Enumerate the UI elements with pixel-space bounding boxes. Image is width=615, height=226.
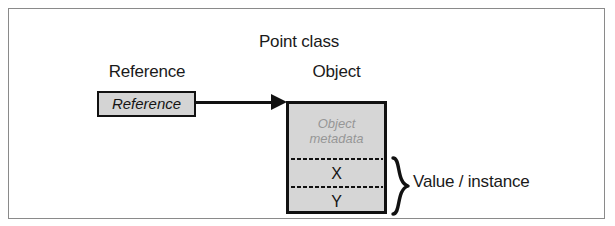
figure-frame: Point class Reference Object Reference O… [8,8,605,219]
object-field-y-label: Y [331,193,342,210]
object-metadata-line-1: Object [318,116,356,131]
reference-column-heading: Reference [97,62,197,81]
object-column-heading: Object [286,62,387,81]
diagram-canvas: Point class Reference Object Reference O… [0,0,615,226]
reference-to-object-arrow-head [271,94,287,110]
reference-box-label: Reference [112,96,181,112]
object-metadata-line-2: metadata [309,131,363,146]
object-metadata-region: Object metadata [289,104,384,157]
object-field-x-label: X [331,165,342,182]
object-box: Object metadata X Y [286,101,387,214]
reference-box: Reference [97,91,196,117]
reference-to-object-arrow-shaft [196,101,274,104]
object-field-x: X [289,161,384,185]
diagram-title: Point class [199,32,399,51]
object-field-y: Y [289,189,384,213]
value-instance-brace-icon [390,156,412,216]
value-instance-label: Value / instance [413,172,530,191]
